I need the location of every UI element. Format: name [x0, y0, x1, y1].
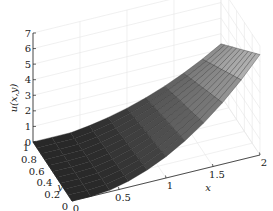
- x-axis-label: x: [205, 182, 211, 193]
- y-tick-label: 0.8: [21, 154, 37, 165]
- y-tick-label: 0: [62, 201, 68, 211]
- z-tick-label: 1: [25, 121, 31, 132]
- x-tick-label: 2: [261, 157, 267, 168]
- z-axis-label: u(x,y): [8, 84, 19, 113]
- z-tick-label: 5: [25, 59, 31, 70]
- z-tick-label: 7: [25, 28, 31, 39]
- z-tick-label: 2: [25, 105, 31, 116]
- y-tick-label: 0.4: [36, 177, 52, 188]
- x-tick-label: 0.5: [115, 192, 131, 203]
- z-tick-label: 6: [25, 43, 31, 54]
- x-tick-label: 1: [167, 180, 173, 191]
- x-tick-label: 0: [73, 203, 79, 211]
- y-axis-label: y: [56, 181, 63, 192]
- z-tick-label: 3: [25, 90, 31, 101]
- surface-plot: 0123456700.20.40.60.8100.511.52 u(x,y) y…: [0, 0, 273, 211]
- x-tick-label: 1.5: [209, 169, 225, 180]
- z-tick-label: 4: [25, 74, 31, 85]
- y-tick-label: 0.6: [29, 166, 45, 177]
- y-tick-label: 1: [23, 142, 29, 153]
